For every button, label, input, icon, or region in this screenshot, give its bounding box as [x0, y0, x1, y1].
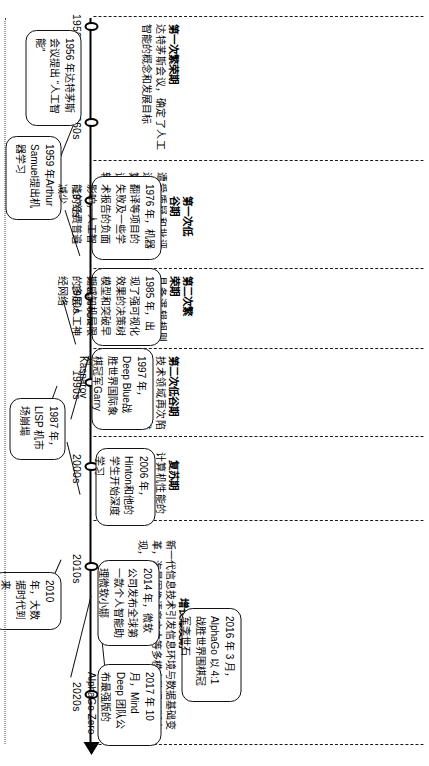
event-card-2014[interactable]: 2014 年，微软公司发布全球第一款个人智能助理微软小娜	[97, 560, 159, 646]
era-description: 达特茅斯会议，确定了人工智能的概念和发展目标	[138, 24, 166, 150]
era-title: 第二次低谷期	[166, 356, 179, 432]
event-card-1997[interactable]: 1997 年，Deep Blue战胜世界国际象棋冠军Garry Kasparov	[91, 348, 153, 430]
bottom-dotted-edge	[4, 18, 5, 744]
event-card-2016[interactable]: 2016 年 3 月，AlphaGo 以 4:1 战胜世界围棋冠军李世石	[181, 608, 241, 702]
event-card-1987[interactable]: 1987 年，LISP 机市场崩塌	[10, 398, 66, 460]
era-title: 第一次低谷期	[167, 196, 193, 242]
era-separator	[93, 436, 423, 437]
event-card-2010[interactable]: 2010 年，大数据时代到来	[0, 572, 61, 630]
axis-tick-1950s	[84, 22, 98, 31]
era-block-first-boom: 第一次繁荣期 达特茅斯会议，确定了人工智能的概念和发展目标	[138, 24, 179, 156]
era-title: 第二次繁荣期	[167, 276, 193, 320]
event-card-1985[interactable]: 1985 年，出现了强可视化效果的决策树模型和突破早期感知机局限的多层人工神经网…	[91, 268, 161, 346]
era-separator	[93, 16, 423, 17]
axis-label-2020s: 2020s	[70, 682, 82, 712]
axis-label-2010s: 2010s	[70, 554, 82, 584]
event-card-1959[interactable]: 1959 年Arthur Samuel提出机器学习	[6, 136, 62, 220]
event-card-2006[interactable]: 2006 年，Hinton和他的学生开始深度学习	[95, 448, 155, 526]
event-card-1956[interactable]: 1956 年达特茅斯会议提出 “人工智能”	[26, 30, 82, 126]
era-title: 第一次繁荣期	[166, 24, 179, 156]
axis-tick-1960s	[84, 118, 98, 127]
timeline-diagram: 1950s 1960s 1970s 1980s 1990s 2000s 2010…	[0, 0, 429, 766]
era-separator	[93, 160, 423, 161]
axis-tick-2010s	[84, 562, 98, 571]
event-card-1976[interactable]: 1976 年，机器翻译等项目的失败及一些学术报告的负面影响，人工智能的经费普遍减…	[91, 176, 161, 260]
era-title: 复苏期	[166, 460, 179, 516]
connector-line	[70, 596, 91, 678]
event-card-2017[interactable]: 2017 年 10 月，Mind Deep 团队公布最强版的 AlphaGo Z…	[97, 664, 161, 746]
